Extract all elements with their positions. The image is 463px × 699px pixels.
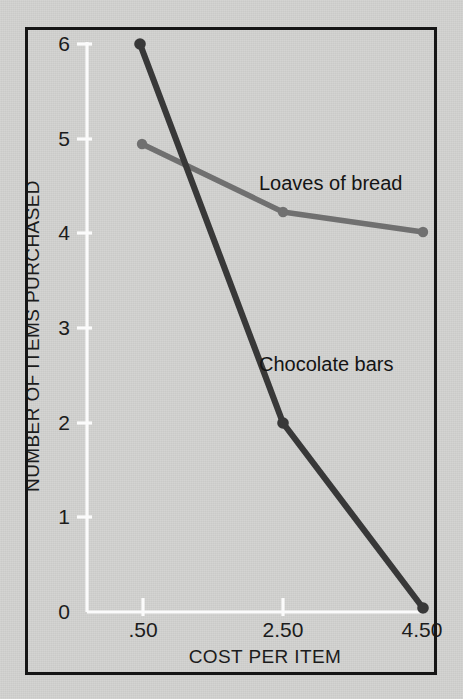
figure-border [25, 27, 437, 675]
chart-page: 6 5 4 3 2 1 0 .50 2.50 4.50 NUMBER OF IT… [0, 0, 463, 699]
